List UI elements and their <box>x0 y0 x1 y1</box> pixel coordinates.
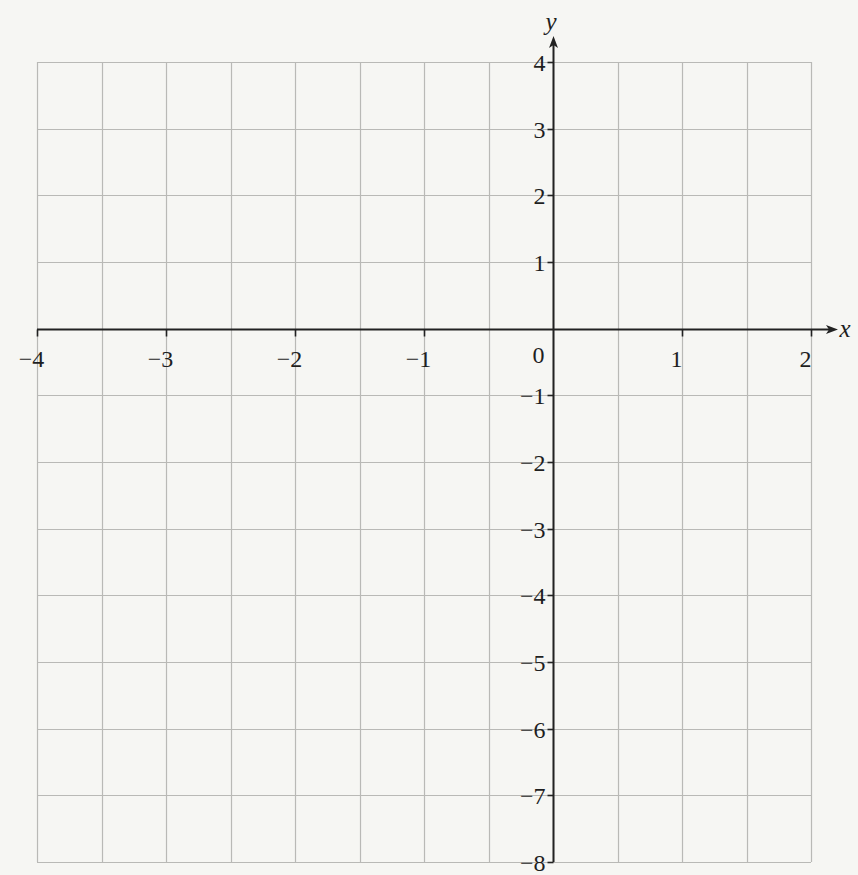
origin-label: 0 <box>533 342 545 368</box>
x-tick-label: −1 <box>406 346 432 372</box>
x-axis-label: x <box>838 315 850 342</box>
coordinate-plane: −4−3−2−11204321−1−2−3−4−5−6−7−8 x y <box>0 0 858 875</box>
y-tick-label: −1 <box>520 383 546 409</box>
y-axis-label: y <box>542 8 557 35</box>
y-tick-label: −3 <box>520 517 546 543</box>
x-tick-label: −3 <box>148 346 174 372</box>
y-tick-label: −2 <box>520 450 546 476</box>
x-tick-label: 1 <box>671 346 683 372</box>
x-tick-label: 2 <box>800 346 812 372</box>
grid-lines <box>37 62 812 863</box>
axes <box>37 36 838 862</box>
x-tick-label: −4 <box>19 346 45 372</box>
y-tick-label: −4 <box>520 583 546 609</box>
y-tick-label: −8 <box>520 850 546 875</box>
coordinate-grid-chart: −4−3−2−11204321−1−2−3−4−5−6−7−8 x y <box>0 0 858 875</box>
x-tick-label: −2 <box>277 346 303 372</box>
y-tick-label: 2 <box>534 183 546 209</box>
y-tick-label: 4 <box>534 50 546 76</box>
y-tick-label: −6 <box>520 717 546 743</box>
y-tick-label: 3 <box>534 117 546 143</box>
y-tick-label: −5 <box>520 650 546 676</box>
y-tick-label: −7 <box>520 783 546 809</box>
y-tick-label: 1 <box>534 250 546 276</box>
